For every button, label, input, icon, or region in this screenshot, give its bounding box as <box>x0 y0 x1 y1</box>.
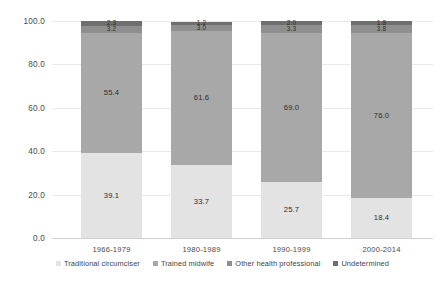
legend-label: Undetermined <box>341 259 389 268</box>
bar-segment-trained-midwife[interactable]: 69.0 <box>261 33 322 183</box>
bar-segment-other-health-professional[interactable]: 3.3 <box>261 25 322 32</box>
bar-column-1966-1979[interactable]: 39.1 55.4 3.2 2.3 1966-1979 <box>81 21 142 238</box>
y-axis-tick-100: 100.0 <box>24 17 46 26</box>
plot-area: 100.0 80.0 60.0 40.0 20.0 0.0 39.1 55.4 … <box>52 21 433 238</box>
bar-segment-undetermined[interactable]: 2.0 <box>261 21 322 25</box>
y-axis-tick-40: 40.0 <box>28 147 45 156</box>
y-axis-tick-0: 0.0 <box>33 234 45 243</box>
bar-segment-value: 33.7 <box>194 198 209 206</box>
legend-label: Traditional circumciser <box>64 259 140 268</box>
axis-baseline <box>52 238 433 239</box>
legend-item-other-health-professional[interactable]: Other health professional <box>227 259 320 268</box>
bar-segment-trained-midwife[interactable]: 61.6 <box>171 31 232 165</box>
legend-label: Other health professional <box>235 259 320 268</box>
y-axis-tick-20: 20.0 <box>28 190 45 199</box>
bar-segment-undetermined[interactable]: 2.3 <box>81 21 142 26</box>
bar-segment-trained-midwife[interactable]: 55.4 <box>81 33 142 153</box>
stacked-bar-chart: 100.0 80.0 60.0 40.0 20.0 0.0 39.1 55.4 … <box>0 0 445 282</box>
bar-segment-value: 55.4 <box>104 89 119 97</box>
bar-segment-value: 18.4 <box>374 214 389 222</box>
bar-segment-traditional-circumciser[interactable]: 33.7 <box>171 165 232 238</box>
bar-segment-other-health-professional[interactable]: 3.2 <box>81 26 142 33</box>
legend-swatch-icon <box>333 261 338 266</box>
bar-segment-undetermined[interactable]: 1.2 <box>171 22 232 25</box>
bar-segment-value: 3.8 <box>377 26 386 32</box>
legend-swatch-icon <box>56 261 61 266</box>
legend-label: Trained midwife <box>161 259 214 268</box>
bar-segment-value: 76.0 <box>374 112 389 120</box>
y-axis-tick-80: 80.0 <box>28 60 45 69</box>
bar-column-1990-1999[interactable]: 25.7 69.0 3.3 2.0 1990-1999 <box>261 21 322 238</box>
legend-item-undetermined[interactable]: Undetermined <box>333 259 389 268</box>
bar-segment-undetermined[interactable]: 1.8 <box>351 21 412 25</box>
bar-segment-traditional-circumciser[interactable]: 18.4 <box>351 198 412 238</box>
bar-segment-value: 39.1 <box>104 192 119 200</box>
bar-segment-value: 3.3 <box>287 26 296 32</box>
bar-segment-traditional-circumciser[interactable]: 25.7 <box>261 182 322 238</box>
chart-legend: Traditional circumciser Trained midwife … <box>0 259 445 268</box>
bar-group: 39.1 55.4 3.2 2.3 1966-1979 <box>52 21 433 238</box>
bar-segment-value: 3.2 <box>107 26 116 32</box>
x-axis-tick-label: 2000-2014 <box>317 245 445 254</box>
bar-column-2000-2014[interactable]: 18.4 76.0 3.8 1.8 2000-2014 <box>351 21 412 238</box>
bar-segment-value: 2.0 <box>287 20 296 26</box>
y-axis-tick-60: 60.0 <box>28 103 45 112</box>
bar-segment-traditional-circumciser[interactable]: 39.1 <box>81 153 142 238</box>
legend-item-trained-midwife[interactable]: Trained midwife <box>153 259 214 268</box>
bar-segment-value: 61.6 <box>194 94 209 102</box>
bar-segment-value: 1.8 <box>377 20 386 26</box>
bar-column-1980-1989[interactable]: 33.7 61.6 3.0 1.2 1980-1989 <box>171 21 232 238</box>
bar-segment-value: 2.3 <box>107 20 116 26</box>
bar-segment-value: 1.2 <box>197 20 206 26</box>
bar-segment-value: 25.7 <box>284 206 299 214</box>
legend-swatch-icon <box>227 261 232 266</box>
bar-segment-trained-midwife[interactable]: 76.0 <box>351 33 412 198</box>
bar-segment-value: 69.0 <box>284 104 299 112</box>
legend-item-traditional-circumciser[interactable]: Traditional circumciser <box>56 259 140 268</box>
legend-swatch-icon <box>153 261 158 266</box>
